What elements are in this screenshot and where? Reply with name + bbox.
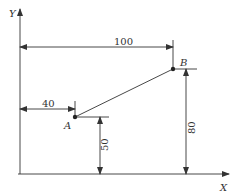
y-axis-label: Y (9, 8, 17, 19)
segment-ab (75, 69, 173, 117)
point-a-label: A (63, 120, 71, 131)
point-b-label: B (179, 57, 187, 68)
x-axis-label: X (219, 182, 228, 193)
diagram-svg: Y X A B 100 40 50 80 (0, 0, 240, 196)
dimension-text-100: 100 (114, 36, 133, 47)
diagram-canvas: Y X A B 100 40 50 80 (0, 0, 240, 196)
point-b (171, 67, 175, 71)
dimension-text-50: 50 (99, 138, 110, 151)
point-a (73, 115, 77, 119)
dimension-text-80: 80 (186, 121, 197, 134)
dimension-text-40: 40 (42, 98, 55, 109)
